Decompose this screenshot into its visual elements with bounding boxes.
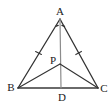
vertex-label-p: P xyxy=(50,55,56,66)
segment-ac xyxy=(60,19,98,88)
segment-bp xyxy=(18,64,60,88)
vertex-label-d: D xyxy=(58,92,66,103)
segment-ad xyxy=(60,19,61,88)
vertex-label-c: C xyxy=(100,83,107,94)
vertex-label-a: A xyxy=(56,6,64,17)
segment-pc xyxy=(60,64,98,88)
geometry-figure: A B C D P xyxy=(0,0,112,112)
vertex-label-b: B xyxy=(7,82,14,93)
